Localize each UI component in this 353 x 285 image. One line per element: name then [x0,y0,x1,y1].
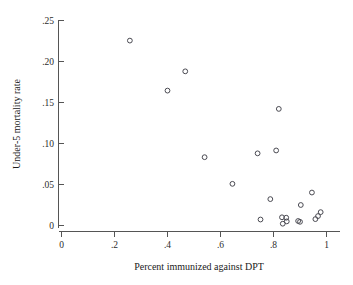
scatter-plot-figure: .25 .20 .15 .10 .05 0 0 .2 .4 .6 .8 1 Pe… [0,0,353,285]
data-point [202,155,207,160]
y-axis-title: Under-5 mortality rate [11,79,22,169]
data-point [316,214,321,219]
data-points-layer [127,38,323,226]
x-tick-label: 1 [324,240,329,250]
x-axis-title: Percent immunized against DPT [134,261,264,272]
x-tick-label: .2 [111,240,118,250]
data-point [165,88,170,93]
data-point [127,38,132,43]
y-tick-label: .25 [42,16,54,26]
x-tick-label: .6 [217,240,224,250]
data-point [310,190,315,195]
y-tick-label: .20 [42,57,54,67]
data-point [183,69,188,74]
plot-canvas: .25 .20 .15 .10 .05 0 0 .2 .4 .6 .8 1 Pe… [0,0,353,285]
x-tick-labels: 0 .2 .4 .6 .8 1 [59,240,329,250]
data-point [298,203,303,208]
y-tick-marks [59,21,64,226]
data-point [230,181,235,186]
y-tick-label: .05 [42,180,54,190]
y-tick-label: .10 [42,139,54,149]
data-point [274,148,279,153]
x-tick-marks [62,232,327,237]
y-tick-label: 0 [49,221,54,231]
y-tick-label: .15 [42,98,54,108]
x-tick-label: .4 [164,240,171,250]
x-tick-label: 0 [59,240,64,250]
data-point [258,217,263,222]
data-point [255,151,260,156]
x-tick-label: .8 [270,240,277,250]
data-point [276,107,281,112]
y-tick-labels: .25 .20 .15 .10 .05 0 [42,16,54,231]
data-point [268,197,273,202]
data-point [313,217,318,222]
